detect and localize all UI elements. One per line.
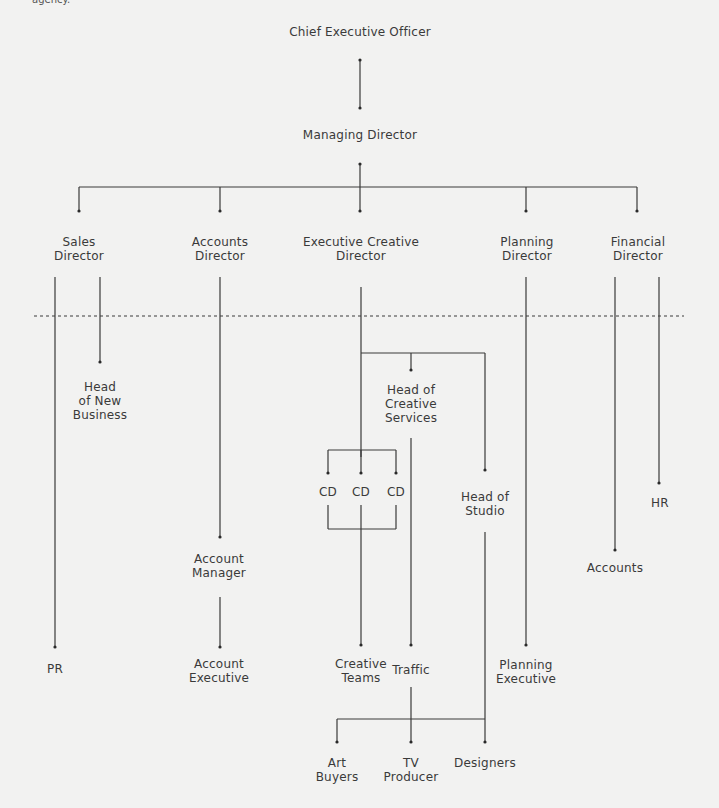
node-executive-creative-director: Executive Creative Director xyxy=(303,235,419,263)
node-accounts: Accounts xyxy=(587,561,643,575)
node-accounts-director: Accounts Director xyxy=(192,235,248,263)
node-designers: Designers xyxy=(454,756,516,770)
node-head-of-studio: Head of Studio xyxy=(461,490,509,518)
node-head-new-business: Head of New Business xyxy=(73,380,128,422)
node-tv-producer: TV Producer xyxy=(384,756,439,784)
node-traffic: Traffic xyxy=(392,663,430,677)
node-cd-2: CD xyxy=(352,485,370,499)
node-account-executive: Account Executive xyxy=(189,657,249,685)
node-head-creative-services: Head of Creative Services xyxy=(385,383,437,425)
node-hr: HR xyxy=(651,496,669,510)
node-cd-3: CD xyxy=(387,485,405,499)
node-planning-executive: Planning Executive xyxy=(496,658,556,686)
node-financial-director: Financial Director xyxy=(611,235,665,263)
node-creative-teams: Creative Teams xyxy=(335,657,387,685)
node-pr: PR xyxy=(47,662,63,676)
node-ceo: Chief Executive Officer xyxy=(289,25,431,39)
node-art-buyers: Art Buyers xyxy=(316,756,359,784)
node-managing-director: Managing Director xyxy=(303,128,417,142)
node-planning-director: Planning Director xyxy=(500,235,553,263)
node-cd-1: CD xyxy=(319,485,337,499)
node-sales-director: Sales Director xyxy=(54,235,104,263)
node-account-manager: Account Manager xyxy=(192,552,246,580)
